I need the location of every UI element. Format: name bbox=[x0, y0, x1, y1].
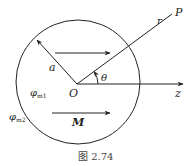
label-a: a bbox=[49, 61, 56, 74]
radius-a-arrow bbox=[37, 40, 77, 84]
figure-caption: 图 2.74 bbox=[78, 151, 113, 162]
sphere-magnetization-diagram: P r a θ O z M φm1 φm2 图 2.74 bbox=[0, 0, 192, 166]
label-theta: θ bbox=[101, 72, 107, 83]
label-P: P bbox=[174, 6, 183, 19]
figure-2-74: P r a θ O z M φm1 φm2 图 2.74 bbox=[0, 0, 192, 166]
label-O: O bbox=[69, 87, 78, 100]
label-M: M bbox=[71, 116, 85, 129]
theta-arc bbox=[94, 72, 98, 85]
label-r: r bbox=[157, 15, 163, 26]
label-phi-m2: φm2 bbox=[9, 111, 26, 123]
label-z: z bbox=[174, 87, 181, 100]
label-phi-m1: φm1 bbox=[30, 87, 47, 99]
